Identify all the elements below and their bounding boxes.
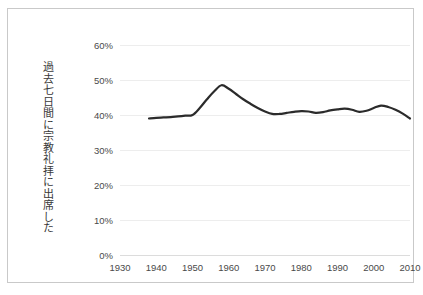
- y-tick-label: 40%: [94, 110, 113, 121]
- y-tick-label: 20%: [94, 180, 113, 191]
- y-axis-title: 過去七日間に宗教礼拝に出席した: [36, 61, 54, 251]
- y-tick-label: 0%: [99, 250, 113, 261]
- x-tick-label: 2000: [363, 262, 384, 273]
- x-tick-label: 2010: [399, 262, 420, 273]
- y-tick-label: 60%: [94, 40, 113, 51]
- plot-area: 0%10%20%30%40%50%60% 1930194019501960197…: [120, 45, 410, 255]
- y-tick-label: 30%: [94, 145, 113, 156]
- x-tick-label: 1990: [327, 262, 348, 273]
- line-series-path: [149, 85, 410, 118]
- x-tick-label: 1940: [146, 262, 167, 273]
- x-tick-label: 1930: [109, 262, 130, 273]
- y-tick-label: 10%: [94, 215, 113, 226]
- x-tick-label: 1980: [291, 262, 312, 273]
- gridline-y-0: [120, 255, 410, 256]
- figure-frame: 過去七日間に宗教礼拝に出席した 0%10%20%30%40%50%60% 193…: [7, 8, 414, 283]
- y-tick-label: 50%: [94, 75, 113, 86]
- chart-screenshot: 過去七日間に宗教礼拝に出席した 0%10%20%30%40%50%60% 193…: [0, 0, 423, 295]
- line-series-svg: [120, 45, 410, 255]
- x-tick-label: 1960: [218, 262, 239, 273]
- x-tick-label: 1950: [182, 262, 203, 273]
- x-tick-label: 1970: [254, 262, 275, 273]
